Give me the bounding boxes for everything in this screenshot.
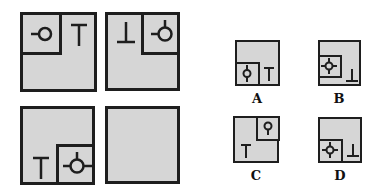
inner-square: [56, 144, 95, 185]
t-shape-icon: [69, 22, 89, 48]
circle-stem-all-four-icon: [322, 142, 338, 158]
option-b-label[interactable]: B: [329, 91, 349, 106]
circle-stem-all-four-icon: [321, 58, 337, 74]
t-shape-icon: [31, 155, 51, 181]
option-c-label[interactable]: C: [246, 168, 266, 183]
option-a-figure[interactable]: [235, 40, 280, 86]
circle-stem-left-top-icon: [146, 16, 178, 48]
circle-stem-bottom-icon: [262, 121, 274, 137]
inverted-t-shape-icon: [345, 68, 359, 84]
t-shape-icon: [263, 66, 275, 82]
inverted-t-shape-icon: [346, 143, 360, 159]
option-b-figure[interactable]: [318, 40, 361, 86]
inner-square: [20, 12, 62, 55]
option-d-label[interactable]: D: [330, 168, 350, 183]
inner-square: [141, 12, 180, 55]
inverted-t-shape-icon: [115, 20, 137, 46]
option-a-label[interactable]: A: [247, 91, 267, 106]
inner-square: [256, 116, 280, 141]
option-c-figure[interactable]: [233, 116, 279, 163]
inner-square: [235, 62, 260, 86]
circle-stem-left-icon: [27, 21, 57, 47]
matrix-cell-2: [105, 12, 180, 91]
option-d-figure[interactable]: [318, 117, 362, 163]
circle-stem-top-bottom-icon: [241, 65, 253, 82]
inner-square: [318, 139, 343, 163]
matrix-cell-3: [20, 106, 95, 185]
matrix-cell-blank: [105, 106, 180, 184]
circle-stem-left-top-right-icon: [60, 149, 94, 181]
inner-square: [318, 55, 342, 78]
t-shape-icon: [240, 143, 252, 159]
matrix-cell-1: [20, 12, 97, 92]
